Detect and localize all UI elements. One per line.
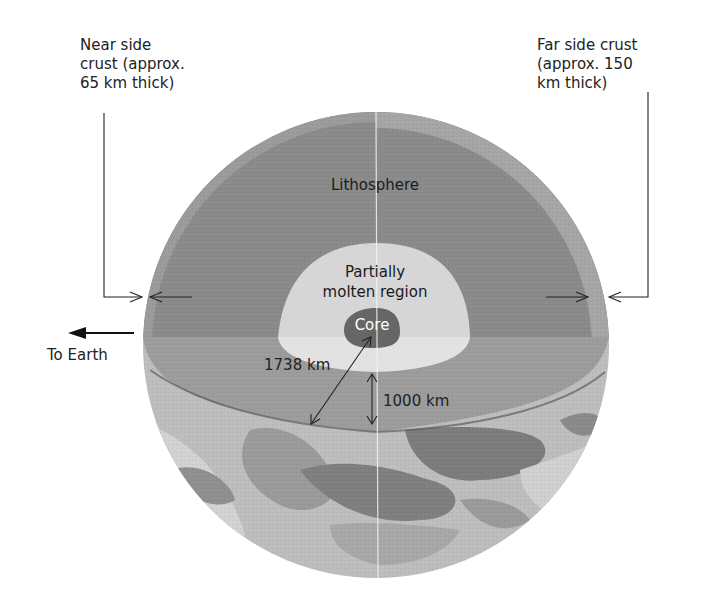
far-side-crust-label: Far side crust (approx. 150 km thick) [537,36,638,93]
radius-label: 1738 km [264,356,330,375]
to-earth-label: To Earth [47,346,108,365]
near-side-crust-label: Near side crust (approx. 65 km thick) [80,36,185,93]
partially-molten-label-line1: Partially [300,263,450,282]
depth-label: 1000 km [383,392,449,411]
core-label: Core [342,316,402,335]
lithosphere-label: Lithosphere [300,176,450,195]
partially-molten-label-line2: molten region [300,283,450,302]
to-earth-arrow [68,327,134,339]
